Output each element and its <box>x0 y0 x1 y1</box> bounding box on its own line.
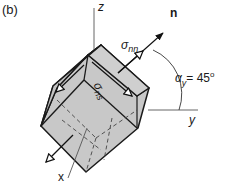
angle-label: αy= 45o <box>175 71 215 88</box>
normal-stress-subscript: nn <box>128 44 138 54</box>
degree-symbol: o <box>210 70 214 79</box>
normal-stress-label: σnn <box>121 39 138 54</box>
angle-value: = 45 <box>186 71 210 85</box>
panel-label: (b) <box>2 3 18 16</box>
alpha-symbol: α <box>175 71 182 85</box>
y-axis-label: y <box>189 114 195 126</box>
z-axis-label: z <box>98 1 104 13</box>
x-axis-label: x <box>58 171 64 183</box>
stress-cube-diagram <box>0 0 230 185</box>
normal-label: n <box>170 7 177 19</box>
